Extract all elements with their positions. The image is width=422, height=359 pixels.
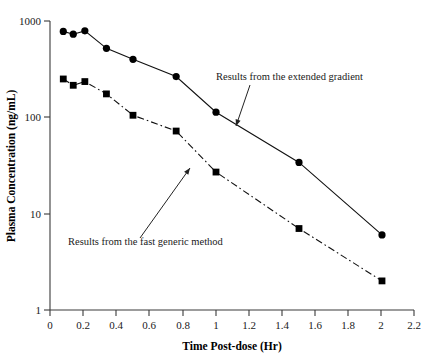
data-point-square bbox=[379, 278, 386, 285]
y-tick-label-1: 1 bbox=[36, 304, 42, 316]
data-point-square bbox=[130, 112, 137, 119]
annotation-layer: Results from the extended gradientResult… bbox=[68, 71, 363, 247]
annotation-text: Results from the extended gradient bbox=[216, 71, 363, 82]
data-point-circle bbox=[295, 159, 302, 166]
x-tick-label-1.6: 1.6 bbox=[308, 319, 322, 331]
data-point-circle bbox=[173, 73, 180, 80]
x-tick-label-0.2: 0.2 bbox=[76, 319, 90, 331]
data-point-square bbox=[103, 91, 110, 98]
series-fast-generic bbox=[60, 76, 386, 285]
annotation-extended-gradient: Results from the extended gradient bbox=[216, 71, 363, 126]
x-tick-label-0.4: 0.4 bbox=[109, 319, 123, 331]
x-axis-title: Time Post-dose (Hr) bbox=[182, 340, 282, 353]
y-tick-group: 1000 100 10 1 bbox=[19, 15, 50, 316]
x-tick-label-2.2: 2.2 bbox=[407, 319, 421, 331]
x-tick-label-2: 2 bbox=[378, 319, 384, 331]
x-tick-label-1.8: 1.8 bbox=[341, 319, 355, 331]
x-tick-label-0.6: 0.6 bbox=[142, 319, 156, 331]
data-point-square bbox=[81, 78, 88, 85]
y-tick-label-100: 100 bbox=[25, 111, 42, 123]
chart-figure: 1000 100 10 1 0 0.2 0.4 0.6 0.8 1 1.2 bbox=[0, 0, 422, 359]
x-tick-label-0.8: 0.8 bbox=[176, 319, 190, 331]
annotation-text: Results from the fast generic method bbox=[68, 236, 224, 247]
annotation-arrow-line bbox=[236, 85, 250, 126]
series-line bbox=[63, 79, 382, 281]
annotation-arrow-head bbox=[184, 168, 190, 175]
axis-group bbox=[50, 21, 414, 310]
data-point-square bbox=[70, 82, 77, 89]
y-axis-title: Plasma Concentration (ng/mL) bbox=[5, 89, 18, 242]
x-tick-label-0: 0 bbox=[47, 319, 53, 331]
series-extended-gradient bbox=[60, 27, 386, 238]
data-point-circle bbox=[212, 109, 219, 116]
data-point-circle bbox=[60, 28, 67, 35]
data-point-square bbox=[296, 225, 303, 232]
x-tick-label-1.2: 1.2 bbox=[242, 319, 256, 331]
annotation-fast-generic: Results from the fast generic method bbox=[68, 168, 224, 247]
data-point-circle bbox=[129, 56, 136, 63]
x-tick-label-1: 1 bbox=[213, 319, 219, 331]
series-line bbox=[63, 31, 382, 235]
y-tick-label-1000: 1000 bbox=[19, 15, 42, 27]
y-tick-label-10: 10 bbox=[30, 208, 42, 220]
data-point-circle bbox=[70, 31, 77, 38]
data-point-circle bbox=[103, 45, 110, 52]
data-point-square bbox=[60, 76, 67, 83]
data-point-square bbox=[173, 128, 180, 135]
data-point-square bbox=[213, 169, 220, 176]
x-tick-label-1.4: 1.4 bbox=[275, 319, 289, 331]
data-point-circle bbox=[81, 27, 88, 34]
data-point-circle bbox=[378, 231, 385, 238]
plasma-concentration-log-plot: 1000 100 10 1 0 0.2 0.4 0.6 0.8 1 1.2 bbox=[0, 0, 422, 359]
x-tick-group: 0 0.2 0.4 0.6 0.8 1 1.2 1.4 1.6 1.8 2 2.… bbox=[47, 310, 421, 331]
annotation-arrow-line bbox=[140, 168, 190, 238]
